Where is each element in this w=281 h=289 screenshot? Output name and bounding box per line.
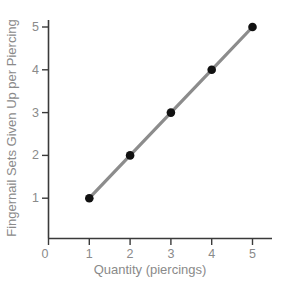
data-point xyxy=(248,23,257,32)
x-tick-label-5: 5 xyxy=(249,247,256,261)
x-tick-label-3: 3 xyxy=(167,247,174,261)
data-point xyxy=(85,194,94,203)
x-tick-label-0: 0 xyxy=(42,247,49,261)
data-point xyxy=(126,151,135,160)
y-tick-label-5: 5 xyxy=(32,20,39,34)
y-axis-title: Fingernail Sets Given Up per Piercing xyxy=(4,19,19,237)
x-tick-label-1: 1 xyxy=(86,247,93,261)
y-tick-label-2: 2 xyxy=(32,148,39,162)
data-point xyxy=(207,66,216,75)
chart-container: 5 4 3 2 1 0 1 2 3 4 5 Quantity (piercing… xyxy=(0,0,281,289)
y-tick-label-4: 4 xyxy=(32,63,39,77)
x-tick-label-2: 2 xyxy=(127,247,134,261)
y-tick-label-3: 3 xyxy=(32,106,39,120)
x-tick-label-4: 4 xyxy=(208,247,215,261)
plot-area xyxy=(0,0,281,289)
x-axis-title: Quantity (piercings) xyxy=(94,262,207,277)
y-tick-label-1: 1 xyxy=(32,191,39,205)
y-axis-ticks xyxy=(42,27,49,198)
data-point xyxy=(167,108,176,117)
x-axis-ticks xyxy=(49,239,253,246)
